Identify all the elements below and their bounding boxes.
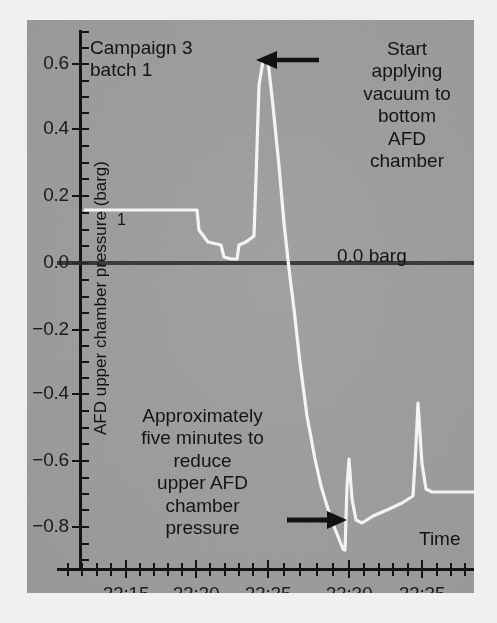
- reduce-line-0: Approximately: [115, 405, 290, 427]
- reduce-callout-text: Approximately five minutes to reduce upp…: [115, 405, 290, 539]
- y-axis-title: AFD upper chamber pressure (barg): [91, 148, 111, 448]
- reduce-line-4: chamber: [115, 495, 290, 517]
- vacuum-line-5: chamber: [332, 150, 474, 172]
- y-tick-label-5: −0.4: [27, 382, 69, 404]
- reduce-line-1: five minutes to: [115, 427, 290, 449]
- reduce-line-3: upper AFD: [115, 472, 290, 494]
- vacuum-line-0: Start: [332, 38, 474, 60]
- reduce-line-2: reduce: [115, 450, 290, 472]
- y-tick-label-4: −0.2: [27, 318, 69, 340]
- campaign-note-line-1: Campaign 3: [90, 37, 192, 59]
- vacuum-line-3: bottom: [332, 105, 474, 127]
- chart-panel: 0.6 0.4 0.2 0.0 −0.2 −0.4 −0.6 −0.8 22:1…: [27, 20, 474, 593]
- reduce-callout-arrow: [287, 511, 347, 529]
- y-tick-label-7: −0.8: [27, 515, 69, 537]
- x-tick-label-4: 22:35: [378, 583, 466, 593]
- zero-barg-label: 0.0 barg: [337, 245, 407, 267]
- y-tick-label-0: 0.6: [27, 52, 69, 74]
- campaign-note-line-2: batch 1: [90, 59, 192, 81]
- reduce-line-5: pressure: [115, 517, 290, 539]
- vacuum-line-4: AFD: [332, 128, 474, 150]
- y-tick-label-3: 0.0: [27, 251, 69, 273]
- x-axis-title: Time: [419, 528, 461, 550]
- figure-root: 0.6 0.4 0.2 0.0 −0.2 −0.4 −0.6 −0.8 22:1…: [0, 0, 497, 623]
- y-tick-label-6: −0.6: [27, 449, 69, 471]
- campaign-note: Campaign 3 batch 1: [90, 37, 192, 82]
- series-label-1: 1: [117, 211, 126, 230]
- y-tick-label-1: 0.4: [27, 117, 69, 139]
- y-tick-label-2: 0.2: [27, 184, 69, 206]
- vacuum-line-2: vacuum to: [332, 83, 474, 105]
- vacuum-callout-text: Start applying vacuum to bottom AFD cham…: [332, 38, 474, 172]
- x-tick-label-2: 22:25: [224, 583, 312, 593]
- vacuum-callout-arrow: [256, 51, 319, 69]
- vacuum-line-1: applying: [332, 60, 474, 82]
